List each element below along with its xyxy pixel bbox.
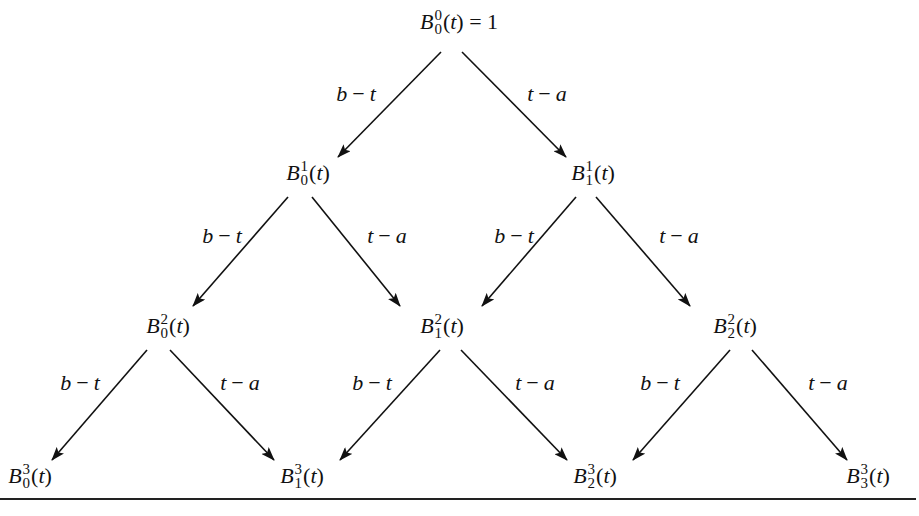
- node-base: B: [713, 313, 726, 338]
- node-index: 0: [161, 326, 169, 340]
- node-equals-value: = 1: [464, 9, 498, 34]
- node-base: B: [146, 313, 159, 338]
- node-B11: B11(t): [571, 159, 615, 188]
- edge-label-B11-B21: b−t: [494, 225, 534, 247]
- node-index: 2: [588, 476, 596, 490]
- node-argument: (t): [869, 463, 890, 488]
- node-index: 1: [586, 173, 594, 187]
- node-indices: 30: [23, 462, 31, 491]
- tree-edges: [0, 0, 919, 516]
- node-B21: B21(t): [420, 312, 464, 341]
- node-B20: B20(t): [146, 312, 190, 341]
- node-argument: (t): [594, 160, 615, 185]
- node-degree: 2: [435, 312, 443, 326]
- node-degree: 2: [728, 312, 736, 326]
- edge-label-B21-B32: t−a: [515, 372, 555, 394]
- node-index: 2: [728, 326, 736, 340]
- node-indices: 31: [295, 462, 303, 491]
- node-degree: 1: [586, 159, 594, 173]
- edge-label-B11-B22: t−a: [659, 225, 699, 247]
- node-B10: B10(t): [286, 159, 330, 188]
- node-degree: 2: [161, 312, 169, 326]
- edge-label-B10-B20: b−t: [202, 225, 242, 247]
- edge-label-B20-B31: t−a: [220, 372, 260, 394]
- node-argument: (t): [596, 463, 617, 488]
- edge-arrow-B20-B31: [170, 350, 274, 460]
- node-base: B: [420, 313, 433, 338]
- node-index: 0: [301, 173, 309, 187]
- node-indices: 20: [161, 312, 169, 341]
- node-base: B: [280, 463, 293, 488]
- node-index: 1: [435, 326, 443, 340]
- node-degree: 3: [295, 462, 303, 476]
- node-base: B: [8, 463, 21, 488]
- node-base: B: [846, 463, 859, 488]
- node-degree: 0: [434, 8, 442, 22]
- node-B33: B33(t): [846, 462, 890, 491]
- node-base: B: [571, 160, 584, 185]
- edge-label-B10-B21: t−a: [367, 225, 407, 247]
- edge-arrow-B11-B21: [482, 197, 576, 306]
- node-indices: 00: [434, 8, 442, 37]
- node-indices: 33: [861, 462, 869, 491]
- edge-label-B00-B11: t−a: [527, 83, 567, 105]
- edge-label-B22-B32: b−t: [640, 372, 680, 394]
- node-argument: (t): [169, 313, 190, 338]
- edge-label-B00-B10: b−t: [336, 83, 376, 105]
- node-base: B: [420, 9, 433, 34]
- node-index: 3: [861, 476, 869, 490]
- edge-arrow-B21-B31: [340, 350, 440, 460]
- node-argument: (t): [303, 463, 324, 488]
- node-indices: 22: [728, 312, 736, 341]
- node-indices: 10: [301, 159, 309, 188]
- node-indices: 32: [588, 462, 596, 491]
- edge-arrow-B10-B21: [312, 197, 400, 306]
- edge-arrow-B11-B22: [596, 197, 690, 306]
- edge-arrow-B22-B32: [633, 350, 730, 460]
- caption-rule: [0, 498, 916, 500]
- node-degree: 1: [301, 159, 309, 173]
- edge-label-B22-B33: t−a: [808, 372, 848, 394]
- node-B00: B00(t) = 1: [420, 8, 498, 37]
- node-B22: B22(t): [713, 312, 757, 341]
- node-index: 1: [295, 476, 303, 490]
- edge-arrow-B21-B32: [461, 350, 567, 460]
- node-index: 0: [23, 476, 31, 490]
- node-argument: (t): [443, 313, 464, 338]
- node-base: B: [286, 160, 299, 185]
- node-argument: (t): [736, 313, 757, 338]
- node-B30: B30(t): [8, 462, 52, 491]
- edge-label-B20-B30: b−t: [60, 372, 100, 394]
- node-indices: 11: [586, 159, 594, 188]
- node-index: 0: [434, 22, 442, 36]
- node-argument: (t): [31, 463, 52, 488]
- edge-label-B21-B31: b−t: [352, 372, 392, 394]
- node-B32: B32(t): [573, 462, 617, 491]
- node-indices: 21: [435, 312, 443, 341]
- edge-arrow-B20-B30: [52, 350, 147, 460]
- node-argument: (t): [443, 9, 464, 34]
- node-degree: 3: [588, 462, 596, 476]
- node-B31: B31(t): [280, 462, 324, 491]
- edge-arrow-B10-B20: [193, 197, 288, 306]
- node-argument: (t): [309, 160, 330, 185]
- node-degree: 3: [23, 462, 31, 476]
- node-base: B: [573, 463, 586, 488]
- edge-arrow-B22-B33: [752, 350, 847, 460]
- node-degree: 3: [861, 462, 869, 476]
